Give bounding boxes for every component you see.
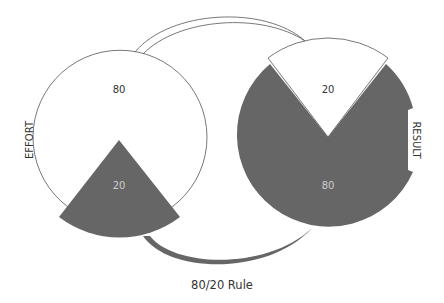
pareto-diagram: 80 20 EFFORT 20 80 RESULT xyxy=(0,0,444,303)
effort-minor-value: 20 xyxy=(113,180,126,191)
top-connector-arc xyxy=(135,17,305,54)
effort-major-value: 80 xyxy=(113,84,126,95)
effort-pie: 80 20 EFFORT xyxy=(24,50,207,237)
result-major-value: 80 xyxy=(322,180,335,191)
result-pie: 20 80 RESULT xyxy=(237,38,422,227)
result-minor-value: 20 xyxy=(322,84,335,95)
diagram-title: 80/20 Rule xyxy=(0,278,444,292)
bottom-connector-arc xyxy=(143,228,312,264)
effort-label: EFFORT xyxy=(24,120,35,159)
result-label: RESULT xyxy=(411,121,422,159)
